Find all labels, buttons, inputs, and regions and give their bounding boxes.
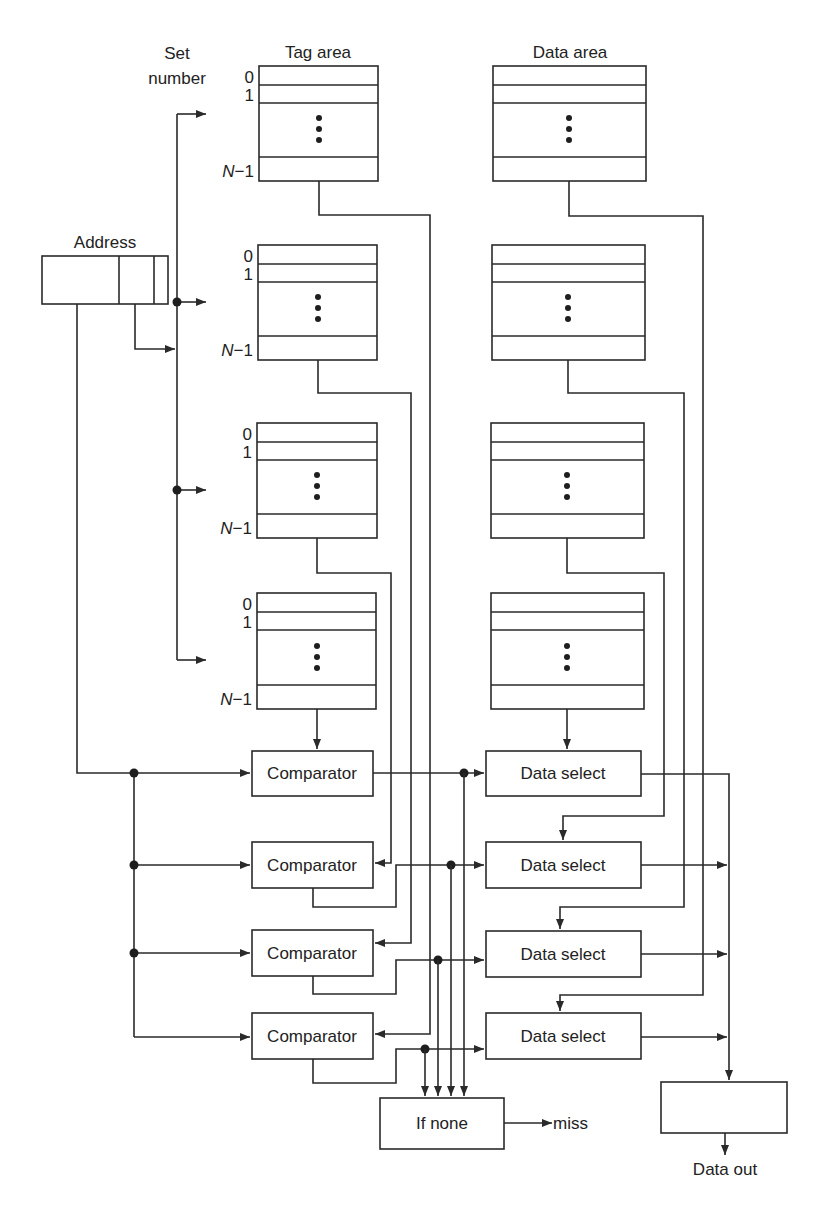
output-register xyxy=(661,1082,787,1133)
data-select-1: Data select xyxy=(486,751,641,796)
address-label: Address xyxy=(74,233,136,252)
svg-text:0: 0 xyxy=(244,247,253,266)
data-select-2: Data select xyxy=(486,842,641,888)
tag-block-2: 0 1 N−1 xyxy=(221,245,377,360)
tag-block-4: 0 1 N−1 xyxy=(220,593,376,709)
set-number-label-2: number xyxy=(148,69,206,88)
svg-text:Comparator: Comparator xyxy=(267,1027,357,1046)
svg-text:Comparator: Comparator xyxy=(267,764,357,783)
svg-text:1: 1 xyxy=(243,443,252,462)
svg-text:If none: If none xyxy=(416,1114,468,1133)
comparator-2: Comparator xyxy=(252,842,373,888)
set-associative-cache-diagram: Set number Tag area Data area Address 0 … xyxy=(0,0,823,1208)
svg-text:0: 0 xyxy=(243,425,252,444)
svg-text:N−1: N−1 xyxy=(220,690,252,709)
data-select-4: Data select xyxy=(486,1013,641,1059)
svg-text:Data select: Data select xyxy=(520,856,605,875)
tag-block-3: 0 1 N−1 xyxy=(220,423,377,538)
data-block-1 xyxy=(493,66,646,181)
set-number-bus xyxy=(135,114,206,660)
miss-label: miss xyxy=(553,1114,588,1133)
svg-text:Data select: Data select xyxy=(520,1027,605,1046)
data-block-3 xyxy=(491,423,644,538)
set-number-label: Set xyxy=(164,44,190,63)
svg-text:Comparator: Comparator xyxy=(267,856,357,875)
svg-text:0: 0 xyxy=(243,595,252,614)
tag-block-1: 0 1 N−1 xyxy=(222,66,378,181)
data-block-2 xyxy=(492,245,645,360)
svg-text:Data select: Data select xyxy=(520,945,605,964)
svg-text:N−1: N−1 xyxy=(221,341,253,360)
svg-text:N−1: N−1 xyxy=(220,519,252,538)
svg-text:1: 1 xyxy=(243,613,252,632)
svg-text:1: 1 xyxy=(245,86,254,105)
svg-text:0: 0 xyxy=(245,68,254,87)
svg-text:Data select: Data select xyxy=(520,764,605,783)
comparator-1: Comparator xyxy=(252,751,373,796)
data-select-3: Data select xyxy=(486,931,641,977)
svg-text:Comparator: Comparator xyxy=(267,944,357,963)
if-none-box: If none xyxy=(380,1098,504,1149)
address-register xyxy=(42,256,168,304)
svg-text:N−1: N−1 xyxy=(222,162,254,181)
comparator-3: Comparator xyxy=(252,930,373,976)
data-area-label: Data area xyxy=(533,43,608,62)
address-tag-bus xyxy=(77,304,250,1037)
svg-text:1: 1 xyxy=(244,265,253,284)
comparator-4: Comparator xyxy=(252,1013,373,1059)
data-out-bus xyxy=(641,774,729,1080)
data-out-label: Data out xyxy=(693,1160,758,1179)
tag-area-label: Tag area xyxy=(285,43,352,62)
data-block-4 xyxy=(491,593,644,709)
